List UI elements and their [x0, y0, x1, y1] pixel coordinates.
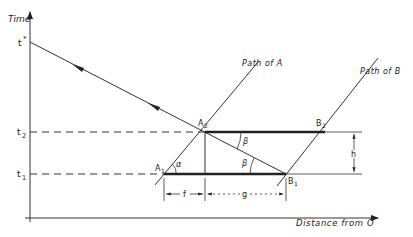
- svg-text:t: t: [17, 127, 21, 137]
- svg-text:B: B: [288, 177, 294, 186]
- svg-text:2: 2: [204, 122, 208, 129]
- beta-upper-label: β: [242, 137, 248, 146]
- path-b-line: [277, 58, 378, 186]
- alpha-label: α: [176, 160, 182, 169]
- svg-text:2: 2: [22, 132, 26, 140]
- point-b2-label: B 2: [316, 119, 326, 129]
- svg-text:t: t: [18, 38, 22, 48]
- g-label: g: [242, 190, 247, 199]
- signal-arrow-upper: [72, 64, 84, 72]
- svg-text:*: *: [23, 35, 27, 43]
- svg-text:t: t: [17, 169, 21, 179]
- point-a1-label: A 1: [155, 164, 165, 174]
- t2-label: t 2: [17, 127, 26, 140]
- beta-lower-arc: [250, 158, 254, 174]
- svg-text:1: 1: [161, 167, 165, 174]
- point-a2-label: A 2: [198, 119, 208, 129]
- point-b1-label: B 1: [288, 177, 298, 187]
- svg-text:B: B: [316, 119, 322, 128]
- signal-arrow-lower: [148, 103, 160, 111]
- h-label: h: [351, 150, 356, 159]
- path-b-label: Path of B: [360, 67, 401, 76]
- x-axis-label: Distance from O: [296, 218, 374, 228]
- time-distance-diagram: Time Distance from O t * t 2 t 1 Path of…: [0, 0, 413, 237]
- beta-lower-label: β: [241, 159, 247, 168]
- f-label: f: [183, 190, 186, 199]
- beta-upper-arc: [237, 132, 241, 149]
- t-star-label: t *: [18, 35, 27, 48]
- svg-text:2: 2: [322, 122, 326, 129]
- path-a-label: Path of A: [242, 59, 283, 68]
- svg-text:1: 1: [22, 174, 26, 182]
- t1-label: t 1: [17, 169, 26, 182]
- y-axis-label: Time: [8, 14, 31, 24]
- svg-text:1: 1: [294, 180, 298, 187]
